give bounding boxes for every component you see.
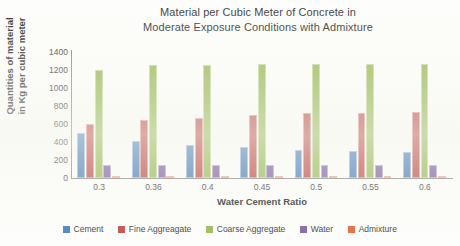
legend-item[interactable]: Admixture [348, 224, 397, 234]
legend-swatch-icon [206, 226, 213, 233]
bar [295, 150, 303, 178]
bar-group [186, 52, 229, 178]
chart-container: Material per Cubic Meter of Concrete in … [0, 0, 460, 246]
x-axis-tick-label: 0.6 [398, 182, 452, 192]
legend-item[interactable]: Fine Aggreagate [118, 224, 191, 234]
chart-legend: CementFine AggreagateCoarse AggregateWat… [0, 224, 460, 234]
x-axis-tick-label: 0.3 [72, 182, 126, 192]
y-axis-title-line-2: in Kg per cubic meter [16, 0, 28, 136]
chart-title: Material per Cubic Meter of Concrete in … [60, 5, 456, 34]
bar [366, 64, 374, 178]
y-axis-tick-label: 800 [34, 101, 68, 111]
bar [86, 124, 94, 178]
y-axis-tick-label: 1400 [34, 47, 68, 57]
legend-item[interactable]: Cement [63, 224, 103, 234]
x-axis-line [71, 178, 453, 179]
legend-swatch-icon [118, 226, 125, 233]
bar [158, 165, 166, 179]
bar [249, 115, 257, 178]
y-axis-tick-label: 400 [34, 137, 68, 147]
y-axis-tick-labels: 0200400600800100012001400 [34, 46, 68, 186]
bar [195, 118, 203, 178]
bar [349, 151, 357, 178]
legend-item[interactable]: Coarse Aggregate [206, 224, 285, 234]
bar [103, 165, 111, 179]
legend-label: Cement [74, 224, 104, 234]
bar [421, 64, 429, 178]
bar [212, 165, 220, 178]
bar [258, 64, 266, 178]
x-axis-tick-label: 0.36 [126, 182, 180, 192]
bar [95, 70, 103, 178]
chart-title-line-2: Moderate Exposure Conditions with Admixt… [60, 20, 456, 35]
bar [186, 145, 194, 178]
x-axis-tick-label: 0.45 [235, 182, 289, 192]
y-axis-tick-label: 200 [34, 155, 68, 165]
y-axis-tick-label: 1200 [34, 65, 68, 75]
bar [375, 165, 383, 179]
x-axis-tick-label: 0.5 [289, 182, 343, 192]
legend-label: Fine Aggreagate [129, 224, 191, 234]
bar [312, 64, 320, 178]
bar [77, 133, 85, 178]
bar-group [132, 52, 175, 178]
bar [412, 112, 420, 178]
x-axis-tick-label: 0.55 [343, 182, 397, 192]
legend-swatch-icon [63, 226, 70, 233]
bar-group [403, 52, 446, 178]
legend-label: Water [311, 224, 333, 234]
bar [140, 120, 148, 178]
bar-group [77, 52, 120, 178]
bar-group [349, 52, 392, 178]
bar [266, 165, 274, 179]
bar [240, 147, 248, 178]
y-axis-tick-label: 1000 [34, 83, 68, 93]
bar-group [240, 52, 283, 178]
legend-swatch-icon [348, 226, 355, 233]
legend-swatch-icon [300, 226, 307, 233]
y-axis-title-line-1: Quantities of material [4, 0, 16, 136]
bar [321, 165, 329, 179]
y-axis-tick-label: 0 [34, 173, 68, 183]
x-axis-tick-label: 0.4 [181, 182, 235, 192]
bar [132, 141, 140, 178]
legend-label: Admixture [359, 224, 397, 234]
legend-label: Coarse Aggregate [217, 224, 286, 234]
chart-title-line-1: Material per Cubic Meter of Concrete in [60, 5, 456, 20]
y-axis-tick-label: 600 [34, 119, 68, 129]
bar-group [295, 52, 338, 178]
bar [303, 113, 311, 178]
bar [149, 65, 157, 178]
y-axis-line [71, 50, 72, 179]
x-axis-title: Water Cement Ratio [72, 196, 452, 207]
bar [403, 152, 411, 178]
bar [429, 165, 437, 179]
bar [358, 113, 366, 178]
plot-area [72, 52, 452, 178]
bar [203, 65, 211, 178]
legend-item[interactable]: Water [300, 224, 333, 234]
